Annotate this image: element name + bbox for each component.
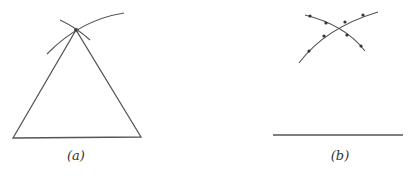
apex-point — [75, 29, 78, 32]
geometry-figure: (a) (b) — [0, 0, 411, 178]
panel-b-label: (b) — [331, 148, 349, 163]
long-arc — [47, 13, 124, 54]
arc-1 — [299, 12, 378, 63]
panel-a-label: (a) — [67, 148, 85, 163]
arc-dots — [307, 13, 364, 52]
panel-a — [13, 13, 141, 138]
triangle — [13, 30, 141, 138]
panel-b — [273, 12, 403, 135]
